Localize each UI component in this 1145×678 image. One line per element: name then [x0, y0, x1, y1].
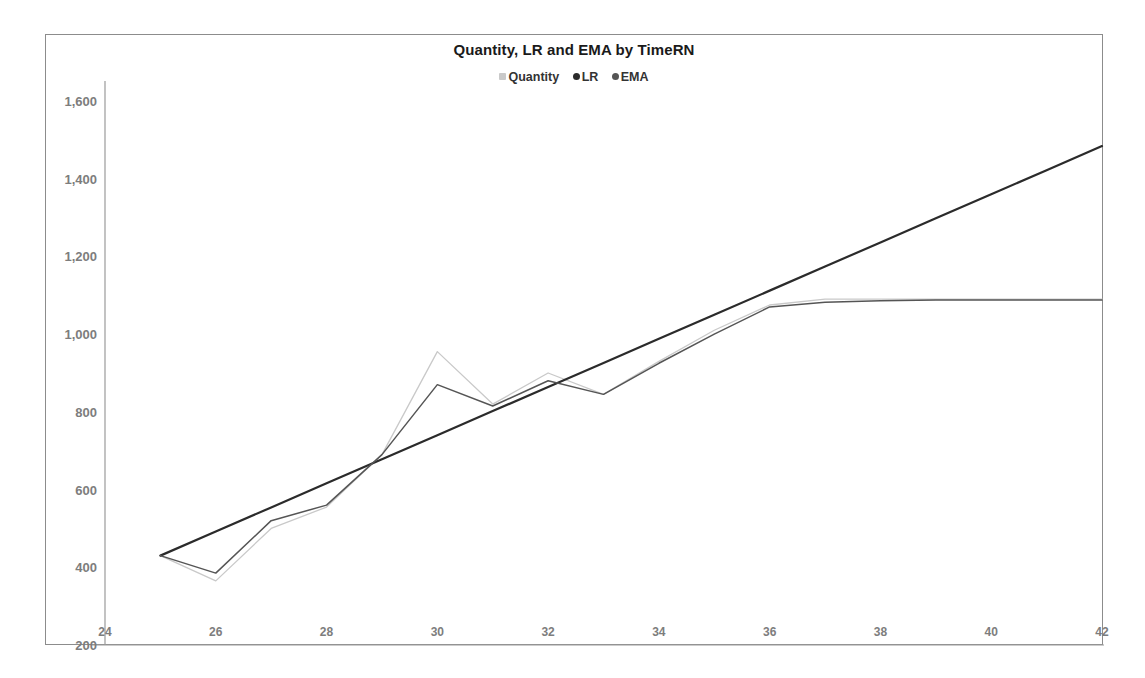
- y-tick-label: 1,400: [37, 171, 97, 186]
- y-tick-label: 1,200: [37, 249, 97, 264]
- x-tick-label: 28: [307, 625, 347, 639]
- series-line-lr: [160, 146, 1102, 556]
- y-tick-label: 800: [37, 404, 97, 419]
- y-tick-label: 200: [37, 638, 97, 653]
- y-tick-label: 400: [37, 560, 97, 575]
- y-tick-label: 1,600: [37, 94, 97, 109]
- y-tick-label: 600: [37, 482, 97, 497]
- x-tick-label: 26: [196, 625, 236, 639]
- y-tick-label: 1,000: [37, 327, 97, 342]
- plot-svg: [46, 35, 1104, 646]
- x-tick-label: 30: [417, 625, 457, 639]
- x-tick-label: 36: [750, 625, 790, 639]
- x-tick-label: 32: [528, 625, 568, 639]
- series-line-quantity: [160, 299, 1102, 581]
- x-tick-label: 34: [639, 625, 679, 639]
- x-tick-label: 42: [1082, 625, 1122, 639]
- chart-frame: Quantity, LR and EMA by TimeRN Quantity …: [45, 34, 1103, 645]
- x-tick-label: 24: [85, 625, 125, 639]
- plot-area: [46, 35, 1104, 646]
- x-tick-label: 40: [971, 625, 1011, 639]
- x-tick-label: 38: [860, 625, 900, 639]
- series-line-ema: [160, 300, 1102, 573]
